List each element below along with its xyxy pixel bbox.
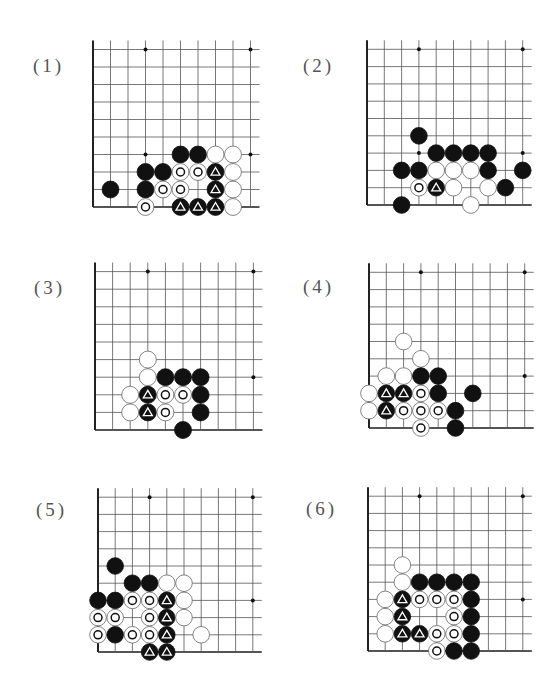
star-point — [521, 597, 525, 601]
black-stone — [463, 626, 480, 643]
white-stone — [377, 626, 394, 643]
black-stone — [429, 574, 446, 591]
black-stone — [463, 591, 480, 608]
white-stone — [429, 591, 446, 608]
black-stone — [446, 643, 463, 660]
white-stone — [429, 643, 446, 660]
black-stone — [411, 626, 428, 643]
black-stone — [394, 608, 411, 625]
star-point — [418, 494, 422, 498]
black-stone — [463, 643, 480, 660]
white-stone — [446, 608, 463, 625]
white-stone — [377, 608, 394, 625]
black-stone — [463, 574, 480, 591]
black-stone — [394, 626, 411, 643]
white-stone — [429, 626, 446, 643]
white-stone — [411, 591, 428, 608]
black-stone — [411, 574, 428, 591]
star-point — [521, 494, 525, 498]
white-stone — [446, 591, 463, 608]
black-stone — [394, 591, 411, 608]
black-stone — [446, 574, 463, 591]
black-stone — [463, 608, 480, 625]
white-stone — [377, 591, 394, 608]
go-board — [0, 0, 555, 683]
white-stone — [394, 557, 411, 574]
white-stone — [446, 626, 463, 643]
white-stone — [394, 574, 411, 591]
